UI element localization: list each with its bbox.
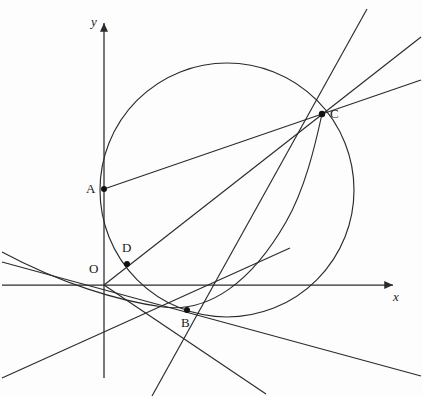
geometry-svg bbox=[0, 0, 423, 396]
diagram-canvas: y x O A B C D bbox=[0, 0, 423, 396]
point-label-D: D bbox=[122, 241, 131, 254]
line-AC-extended bbox=[104, 80, 421, 189]
point-B-dot bbox=[184, 307, 190, 313]
point-label-x: x bbox=[393, 290, 399, 303]
line-OB-extended bbox=[2, 262, 421, 376]
point-label-C: C bbox=[330, 107, 339, 120]
point-label-A: A bbox=[86, 182, 95, 195]
point-A-dot bbox=[101, 186, 107, 192]
axes-group bbox=[2, 23, 393, 378]
point-label-y: y bbox=[91, 15, 97, 28]
line-OC-extended bbox=[104, 37, 421, 285]
curves-group bbox=[2, 9, 421, 396]
point-C-dot bbox=[319, 111, 325, 117]
parabola-OBC bbox=[2, 114, 322, 308]
point-label-B: B bbox=[181, 316, 190, 329]
point-label-O: O bbox=[89, 262, 98, 275]
point-D-dot bbox=[124, 261, 130, 267]
line-B-tangent-down bbox=[104, 285, 266, 394]
